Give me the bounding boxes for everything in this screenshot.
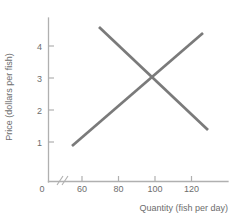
y-tick-label-3: 3 (37, 74, 42, 84)
y-tick-label-4: 4 (37, 42, 42, 52)
axis-break-slash-1 (57, 176, 63, 185)
y-tick-label-2: 2 (37, 106, 42, 116)
supply-demand-chart: 4 3 2 1 0 60 80 100 120 Quantity (fish p… (0, 0, 238, 219)
origin-label: 0 (39, 184, 44, 194)
y-axis-title: Price (dollars per fish) (4, 53, 14, 141)
y-tick-label-1: 1 (37, 138, 42, 148)
supply-curve (72, 33, 203, 146)
x-tick-label-80: 80 (113, 184, 123, 194)
x-tick-label-120: 120 (184, 184, 199, 194)
axis-break-slash-2 (62, 176, 68, 185)
x-axis-title: Quantity (fish per day) (139, 203, 228, 213)
x-tick-label-60: 60 (77, 184, 87, 194)
x-tick-label-100: 100 (147, 184, 162, 194)
chart-canvas: 4 3 2 1 0 60 80 100 120 Quantity (fish p… (0, 0, 238, 219)
